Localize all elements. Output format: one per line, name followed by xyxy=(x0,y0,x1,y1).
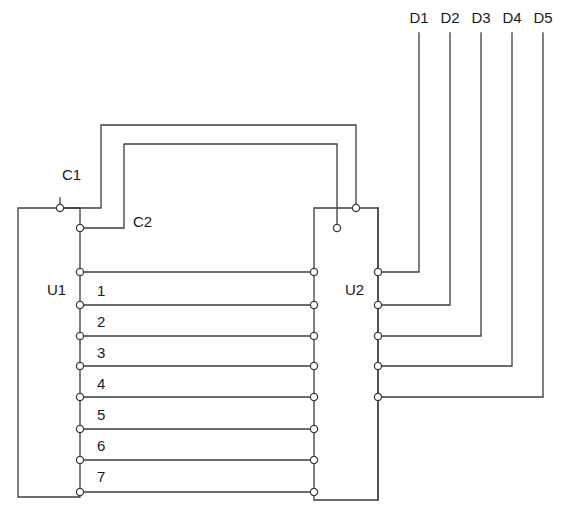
terminal-u2-d3[interactable] xyxy=(374,332,381,339)
terminal-u1-pin-2[interactable] xyxy=(76,301,83,308)
wiring-diagram: C1C21234567D1D2D3D4D5U1U2 xyxy=(0,0,569,515)
terminal-u2-pin-3[interactable] xyxy=(310,332,317,339)
labels-layer: C1C21234567D1D2D3D4D5U1U2 xyxy=(47,9,553,485)
control-wire-c1 xyxy=(60,125,356,208)
label-d5: D5 xyxy=(533,9,552,26)
terminal-u2-d2[interactable] xyxy=(374,301,381,308)
wires-layer xyxy=(60,33,543,492)
wiring-diagram-canvas: C1C21234567D1D2D3D4D5U1U2 xyxy=(0,0,569,515)
terminal-u1-pin-5[interactable] xyxy=(76,393,83,400)
terminal-u2-pin-5[interactable] xyxy=(310,393,317,400)
terminal-u2-c2[interactable] xyxy=(333,224,340,231)
signal-wire-d5 xyxy=(378,33,543,397)
terminal-u2-d5[interactable] xyxy=(374,393,381,400)
label-c1: C1 xyxy=(62,166,81,183)
pin-number-4: 4 xyxy=(97,375,105,392)
pin-number-5: 5 xyxy=(97,406,105,423)
signal-wire-d1 xyxy=(378,33,419,272)
block-outline-u1 xyxy=(18,208,80,497)
pin-number-1: 1 xyxy=(97,282,105,299)
terminal-u2-pin-1[interactable] xyxy=(310,268,317,275)
block-label-u2: U2 xyxy=(345,281,364,298)
terminal-u1-pin-1[interactable] xyxy=(76,268,83,275)
pin-number-2: 2 xyxy=(97,313,105,330)
terminal-u2-d1[interactable] xyxy=(374,268,381,275)
terminal-u2-c1[interactable] xyxy=(352,204,359,211)
terminal-u1-pin-3[interactable] xyxy=(76,332,83,339)
label-c2: C2 xyxy=(133,213,152,230)
pin-number-7: 7 xyxy=(97,468,105,485)
terminal-u2-pin-4[interactable] xyxy=(310,362,317,369)
label-d1: D1 xyxy=(409,9,428,26)
pin-number-3: 3 xyxy=(97,344,105,361)
terminal-u2-pin-8[interactable] xyxy=(310,488,317,495)
terminal-u1-pin-4[interactable] xyxy=(76,362,83,369)
terminal-u1-pin-8[interactable] xyxy=(76,488,83,495)
block-label-u1: U1 xyxy=(47,281,66,298)
label-d4: D4 xyxy=(502,9,521,26)
terminal-u2-pin-6[interactable] xyxy=(310,425,317,432)
signal-wire-d2 xyxy=(378,33,450,305)
control-wire-c2 xyxy=(80,144,337,228)
signal-wire-d3 xyxy=(378,33,481,336)
terminal-u2-pin-7[interactable] xyxy=(310,456,317,463)
connector-blocks-layer xyxy=(18,208,378,500)
pin-number-6: 6 xyxy=(97,437,105,454)
terminal-u2-d4[interactable] xyxy=(374,362,381,369)
terminal-u1-pin-7[interactable] xyxy=(76,456,83,463)
block-outline-u2 xyxy=(314,208,378,500)
terminal-u2-pin-2[interactable] xyxy=(310,301,317,308)
label-d2: D2 xyxy=(440,9,459,26)
label-d3: D3 xyxy=(471,9,490,26)
signal-wire-d4 xyxy=(378,33,512,366)
terminal-u1-c2[interactable] xyxy=(76,224,83,231)
terminal-u1-c1[interactable] xyxy=(56,204,63,211)
terminal-u1-pin-6[interactable] xyxy=(76,425,83,432)
